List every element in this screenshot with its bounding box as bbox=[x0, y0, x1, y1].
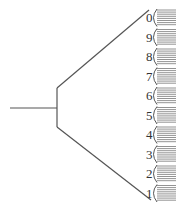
key-label: 4 bbox=[146, 127, 153, 142]
key-label: 5 bbox=[146, 108, 153, 123]
key-0: 0 bbox=[146, 9, 176, 27]
key-label: 3 bbox=[146, 147, 153, 162]
key-column: 0987654321 bbox=[146, 9, 176, 202]
key-fork-diagram: 0987654321 bbox=[0, 0, 185, 209]
key-8: 8 bbox=[146, 48, 176, 66]
upper-diagonal bbox=[57, 10, 149, 88]
bracket-icon bbox=[154, 29, 158, 47]
key-label: 1 bbox=[146, 186, 153, 201]
key-9: 9 bbox=[146, 29, 176, 47]
key-3: 3 bbox=[146, 146, 176, 164]
key-2: 2 bbox=[146, 165, 176, 183]
key-label: 8 bbox=[146, 49, 153, 64]
key-6: 6 bbox=[146, 87, 176, 105]
key-label: 6 bbox=[146, 88, 153, 103]
key-label: 7 bbox=[146, 69, 153, 84]
bracket-icon bbox=[154, 68, 158, 86]
bracket-icon bbox=[154, 165, 158, 183]
bracket-icon bbox=[154, 9, 158, 27]
bracket-icon bbox=[154, 48, 158, 66]
bracket-icon bbox=[154, 107, 158, 125]
bracket-icon bbox=[154, 185, 158, 203]
lower-diagonal bbox=[57, 127, 151, 200]
key-1: 1 bbox=[146, 185, 176, 203]
key-label: 2 bbox=[146, 166, 153, 181]
key-7: 7 bbox=[146, 68, 176, 86]
key-label: 0 bbox=[146, 10, 153, 25]
bracket-icon bbox=[154, 146, 158, 164]
key-4: 4 bbox=[146, 126, 176, 144]
key-label: 9 bbox=[146, 30, 153, 45]
bracket-icon bbox=[154, 126, 158, 144]
key-5: 5 bbox=[146, 107, 176, 125]
bracket-icon bbox=[154, 87, 158, 105]
